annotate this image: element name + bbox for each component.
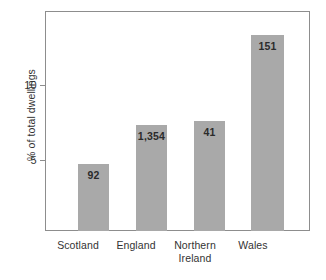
bar-value-northern-ireland: 41 <box>194 126 225 138</box>
bar-wales: 151 <box>251 35 284 231</box>
bar-northern-ireland: 41 <box>194 121 225 231</box>
x-label-scotland: Scotland <box>47 239 109 252</box>
x-label-wales: Wales <box>222 239 284 252</box>
y-axis-title: % of total dwellings <box>22 5 40 225</box>
bar-england: 1,354 <box>136 125 167 231</box>
bar-scotland: 92 <box>78 164 109 231</box>
y-tick-label-10: 10 <box>0 80 37 91</box>
bar-value-scotland: 92 <box>78 169 109 181</box>
bar-value-england: 1,354 <box>136 130 167 142</box>
y-tick-label-5: 5 <box>0 155 37 166</box>
bar-value-wales: 151 <box>251 40 284 52</box>
plot-area: 92 1,354 41 151 <box>45 11 310 231</box>
x-label-northern-ireland-line2: Ireland <box>162 252 228 265</box>
bar-chart: % of total dwellings 10 5 92 1,354 41 15… <box>0 0 326 280</box>
x-label-northern-ireland: Northern Ireland <box>162 239 228 265</box>
x-label-northern-ireland-line1: Northern <box>162 239 228 252</box>
x-label-england: England <box>105 239 167 252</box>
